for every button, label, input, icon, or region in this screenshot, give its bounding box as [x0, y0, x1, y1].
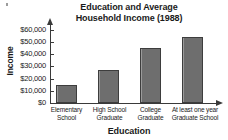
y-axis-label: $60,000: [20, 26, 46, 34]
bar-high-school-graduate: [98, 70, 119, 103]
y-axis-tick: [50, 103, 54, 104]
y-axis-label: $10,000: [20, 87, 46, 95]
chart-title-line-2: Household Income (1988): [44, 13, 214, 24]
x-axis-title: Education: [44, 126, 214, 136]
y-axis-tick: [50, 66, 54, 67]
y-axis-tick: [50, 79, 54, 80]
x-axis-line: [50, 103, 217, 104]
y-axis-tick: [50, 91, 54, 92]
bar-chart: Education and Average Household Income (…: [0, 0, 228, 140]
y-axis-arrow-icon: [47, 18, 53, 25]
image-artifact: [6, 3, 8, 6]
chart-title-line-1: Education and Average: [44, 2, 214, 13]
y-axis-label: $50,000: [20, 38, 46, 46]
y-axis-label: $40,000: [20, 50, 46, 58]
x-axis-category-label: At least one year Graduate School: [164, 106, 226, 121]
y-axis-label: $30,000: [20, 62, 46, 70]
x-axis-category-line-1: At least one year: [164, 106, 226, 114]
y-axis-label: $20,000: [20, 75, 46, 83]
y-axis-tick: [50, 54, 54, 55]
y-axis-tick: [50, 30, 54, 31]
y-axis-title: Income: [5, 38, 15, 84]
y-axis-tick: [50, 42, 54, 43]
x-axis-category-line-2: Graduate School: [164, 114, 226, 122]
bar-college-graduate: [140, 48, 161, 103]
chart-title: Education and Average Household Income (…: [44, 2, 214, 23]
bar-elementary-school: [56, 85, 77, 103]
bar-graduate-school: [182, 37, 203, 103]
